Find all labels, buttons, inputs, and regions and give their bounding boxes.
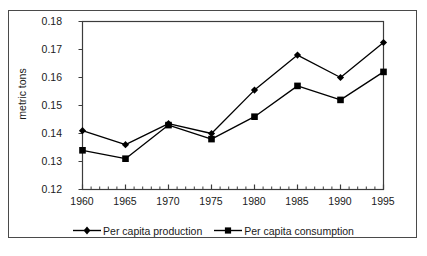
legend-label-production: Per capita production <box>103 224 202 238</box>
chart-figure: metric tons 0.18 0.17 0.16 0.15 0.14 0.1… <box>0 0 427 256</box>
data-series-layer <box>79 39 387 162</box>
plot-area <box>0 0 427 256</box>
chart-legend: Per capita production Per capita consump… <box>0 222 427 238</box>
x-axis-major-ticks <box>83 185 384 190</box>
legend-item-consumption: Per capita consumption <box>214 223 354 238</box>
axis-lines <box>83 22 384 190</box>
diamond-marker-icon <box>73 225 101 236</box>
legend-label-consumption: Per capita consumption <box>244 224 354 238</box>
series-production <box>79 39 387 148</box>
legend-item-production: Per capita production <box>73 223 202 238</box>
square-marker-icon <box>214 225 242 236</box>
